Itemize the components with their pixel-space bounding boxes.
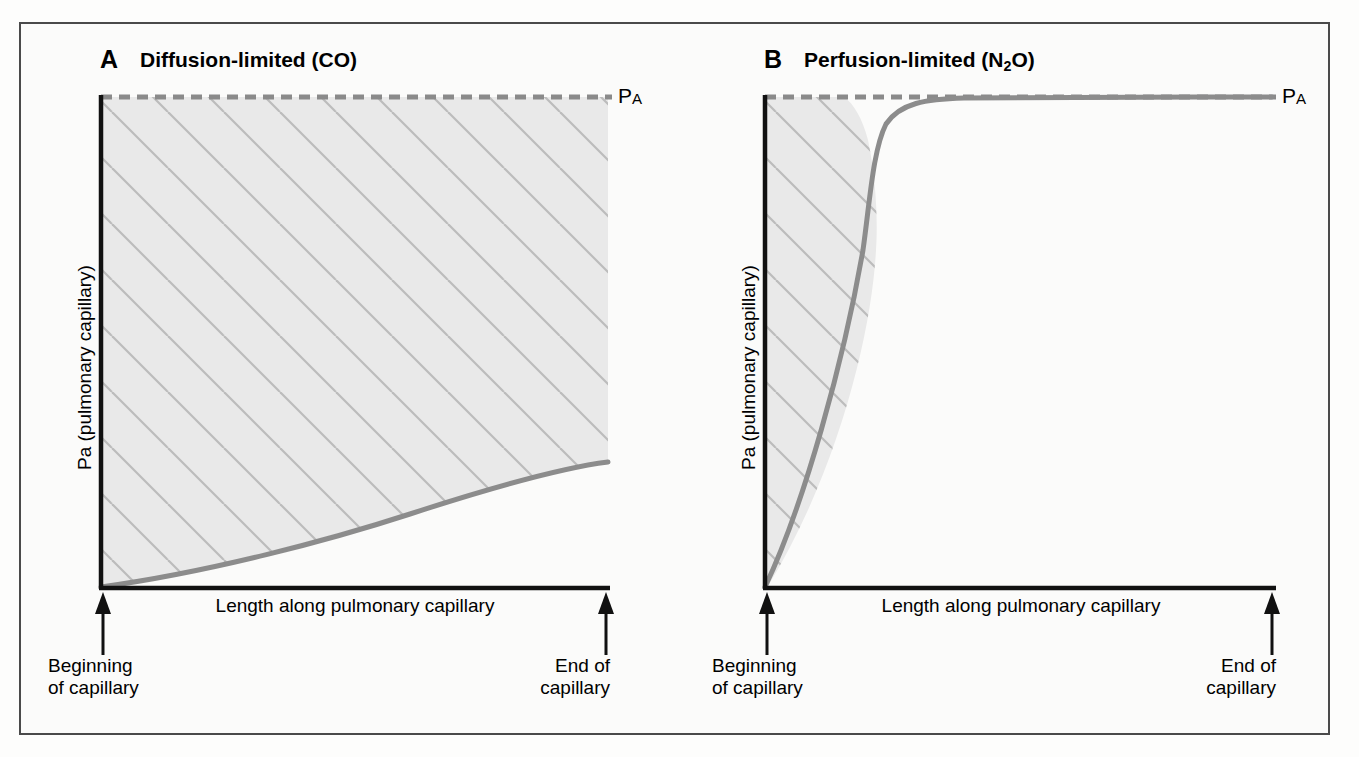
panel-b-end-arrow: [1264, 592, 1280, 655]
panel-b-beginning-of-capillary-label: Beginning of capillary: [712, 655, 803, 700]
panel-a-begin-arrow: [95, 592, 111, 655]
panel-a-begin-line2: of capillary: [48, 677, 139, 699]
panel-b-y-axis-label: Pa (pulmonary capillary): [738, 265, 760, 470]
panel-a-end-line2: capillary: [470, 677, 610, 699]
panel-b-begin-line1: Beginning: [712, 655, 803, 677]
panel-b-end-line2: capillary: [1136, 677, 1276, 699]
panel-b-pa-label: PA: [1282, 84, 1306, 108]
panel-a-plot: [0, 0, 680, 757]
panel-a-end-arrow: [598, 592, 614, 655]
panel-b-perfusion-limited: B Perfusion-limited (N2O): [664, 0, 1359, 757]
panel-b-begin-line2: of capillary: [712, 677, 803, 699]
panel-b-end-of-capillary-label: End of capillary: [1136, 655, 1276, 700]
panel-b-x-axis-label: Length along pulmonary capillary: [846, 595, 1196, 617]
panel-b-begin-arrow: [759, 592, 775, 655]
panel-b-hatched-region: [765, 97, 877, 587]
panel-a-y-axis-label: Pa (pulmonary capillary): [74, 265, 96, 470]
panel-a-x-axis-label: Length along pulmonary capillary: [180, 595, 530, 617]
panel-a-beginning-of-capillary-label: Beginning of capillary: [48, 655, 139, 700]
panel-b-plot: [664, 0, 1359, 757]
panel-a-end-of-capillary-label: End of capillary: [470, 655, 610, 700]
panel-b-end-line1: End of: [1136, 655, 1276, 677]
panel-a-begin-line1: Beginning: [48, 655, 139, 677]
panel-a-pa-main: P: [618, 84, 632, 107]
panel-a-diffusion-limited: A Diffusion-limited (CO): [0, 0, 680, 757]
panel-a-pa-sub: A: [632, 90, 642, 107]
panel-b-pa-main: P: [1282, 84, 1296, 107]
panel-a-end-line1: End of: [470, 655, 610, 677]
panel-a-hatched-region: [101, 97, 608, 587]
panel-a-pa-label: PA: [618, 84, 642, 108]
figure-root: A Diffusion-limited (CO): [0, 0, 1359, 757]
panel-b-pa-sub: A: [1296, 90, 1306, 107]
